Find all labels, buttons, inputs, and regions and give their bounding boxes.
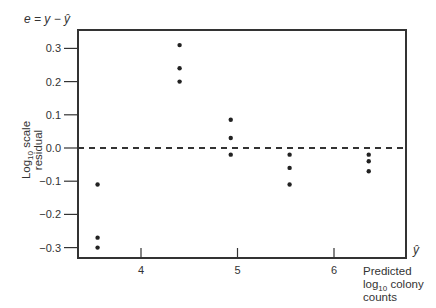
data-point: [367, 159, 371, 163]
data-point: [95, 235, 99, 239]
y-tick-label: −0.3: [39, 242, 61, 254]
y-axis-ticks: 0.30.20.10.0−0.1−0.2−0.3: [39, 42, 78, 253]
data-point: [177, 43, 181, 47]
data-point: [287, 152, 291, 156]
plot-frame: [78, 30, 406, 258]
data-point: [229, 152, 233, 156]
y-tick-label: 0.2: [46, 76, 61, 88]
x-axis-title-line1: Predicted: [363, 265, 412, 277]
y-axis-title: Log10 scaleresidual: [20, 121, 44, 179]
data-point: [287, 166, 291, 170]
y-tick-label: 0.0: [46, 142, 61, 154]
data-point: [367, 152, 371, 156]
axis-labels: e = y − ŷLog10 scaleresidualŷPredictedlo…: [20, 12, 424, 303]
data-point: [367, 169, 371, 173]
data-point: [177, 66, 181, 70]
x-tick-label: 5: [234, 264, 240, 276]
data-point: [229, 136, 233, 140]
x-axis-ticks: 456: [138, 248, 337, 276]
data-point: [229, 118, 233, 122]
data-point: [287, 182, 291, 186]
y-tick-label: 0.3: [46, 42, 61, 54]
x-tick-label: 6: [331, 264, 337, 276]
data-point: [177, 79, 181, 83]
y-tick-label: −0.1: [39, 175, 61, 187]
data-point: [95, 245, 99, 249]
y-tick-label: 0.1: [46, 109, 61, 121]
y-axis-equation-label: e = y − ŷ: [24, 12, 71, 26]
x-axis-title-line3: counts: [363, 291, 397, 303]
y-tick-label: −0.2: [39, 208, 61, 220]
x-tick-label: 4: [138, 264, 144, 276]
x-axis-symbol: ŷ: [412, 243, 420, 257]
residual-scatter-plot: 0.30.20.10.0−0.1−0.2−0.3 456 e = y − ŷLo…: [0, 0, 436, 308]
data-points: [95, 43, 371, 250]
data-point: [95, 182, 99, 186]
y-axis-title-line2: residual: [32, 130, 44, 170]
plot-border: [78, 30, 406, 258]
